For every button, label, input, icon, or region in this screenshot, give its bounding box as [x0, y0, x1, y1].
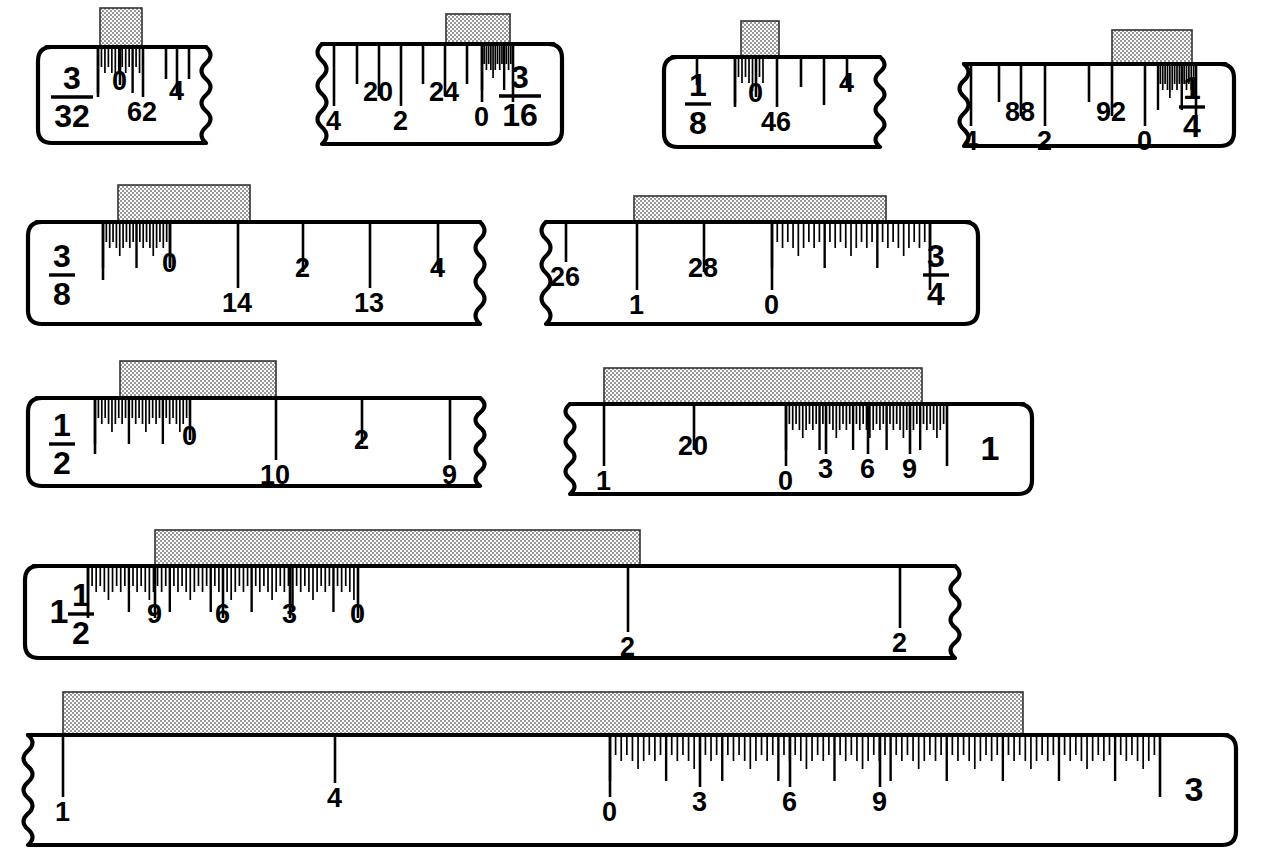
gauge-block — [120, 361, 276, 398]
tick-label: 0 — [764, 290, 779, 320]
tick-label: 0 — [182, 421, 197, 451]
ruler-body — [28, 222, 485, 324]
tick-label: 13 — [354, 288, 384, 318]
ruler-rule-1-2: 0102912 — [28, 361, 485, 490]
tick-label: 1 — [596, 466, 611, 496]
tick-label: 4 — [169, 76, 184, 106]
ruler-rule-3: 1403693 — [24, 692, 1237, 845]
size-label-denominator: 2 — [53, 445, 71, 481]
gauge-block — [1112, 30, 1192, 64]
gauge-block — [604, 368, 922, 404]
size-label-numerator: 3 — [53, 238, 71, 274]
tick-label: 4 — [839, 68, 854, 98]
tick-label: 20 — [363, 77, 393, 107]
tick-label: 88 — [1005, 97, 1035, 127]
tick-label: 0 — [602, 797, 617, 827]
tick-label: 9 — [902, 454, 917, 484]
size-label-numerator: 3 — [63, 60, 81, 96]
tick-label: 62 — [127, 97, 157, 127]
tick-label: 1 — [55, 797, 70, 827]
gauge-block-fill — [120, 361, 276, 398]
size-label-whole: 3 — [1185, 770, 1204, 808]
size-label-whole: 1 — [981, 429, 1000, 467]
gauge-block-fill — [604, 368, 922, 404]
tick-label: 4 — [327, 783, 342, 813]
tick-label: 3 — [282, 599, 297, 629]
ruler-rule-3-4: 26128034 — [542, 196, 979, 324]
tick-label: 0 — [162, 248, 177, 278]
tick-label: 0 — [112, 66, 127, 96]
size-label-denominator: 32 — [54, 98, 90, 134]
gauge-block — [155, 530, 640, 567]
size-label-denominator: 4 — [927, 276, 945, 312]
tick-label: 6 — [215, 599, 230, 629]
tick-label: 9 — [442, 460, 457, 490]
ruler-rule-3-32: 0624332 — [38, 8, 211, 143]
size-label-numerator: 1 — [72, 577, 90, 613]
size-label-whole: 1 — [50, 592, 69, 630]
ruler-body — [28, 398, 485, 486]
size-label-denominator: 2 — [72, 615, 90, 651]
size-label-denominator: 8 — [689, 105, 707, 141]
tick-label: 10 — [260, 460, 290, 490]
tick-label: 14 — [222, 288, 252, 318]
tick-label: 4 — [326, 106, 341, 136]
tick-label: 46 — [761, 107, 791, 137]
size-label-numerator: 1 — [53, 407, 71, 443]
tick-label: 2 — [354, 425, 369, 455]
gauge-block-fill — [118, 185, 250, 222]
tick-label: 2 — [295, 253, 310, 283]
tick-label: 2 — [393, 106, 408, 136]
size-label: 1 — [981, 429, 1000, 467]
size-label-numerator: 3 — [927, 238, 945, 274]
tick-label: 28 — [688, 253, 718, 283]
tick-label: 2 — [892, 628, 907, 658]
ruler-body — [542, 222, 979, 324]
size-label-denominator: 4 — [1183, 108, 1201, 144]
tick-label: 0 — [748, 78, 763, 108]
tick-label: 92 — [1096, 97, 1126, 127]
tick-label: 6 — [860, 454, 875, 484]
gauge-block — [118, 185, 250, 222]
gauge-block-fill — [63, 692, 1023, 738]
ruler-diagram-svg: 0624332420224031604641848829201401421343… — [0, 0, 1277, 867]
ruler-rule-1-1-2: 963022112 — [25, 530, 960, 662]
gauge-block — [741, 21, 779, 57]
tick-label: 1 — [629, 290, 644, 320]
size-label: 3 — [1185, 770, 1204, 808]
tick-label: 4 — [963, 126, 978, 156]
size-label-denominator: 8 — [53, 276, 71, 312]
gauge-block-fill — [741, 21, 779, 57]
tick-label: 0 — [350, 599, 365, 629]
gauge-block-fill — [155, 530, 640, 567]
ruler-rule-3-16: 4202240316 — [318, 14, 563, 144]
ruler-rule-1: 12003691 — [566, 368, 1033, 496]
tick-label: 9 — [147, 599, 162, 629]
ruler-rule-3-8: 014213438 — [28, 185, 485, 324]
tick-label: 3 — [818, 454, 833, 484]
tick-label: 0 — [474, 102, 489, 132]
tick-label: 2 — [620, 632, 635, 662]
gauge-block — [100, 8, 142, 48]
gauge-block-fill — [1112, 30, 1192, 64]
gauge-block-fill — [100, 8, 142, 48]
figure-canvas: 0624332420224031604641848829201401421343… — [0, 0, 1277, 867]
tick-label: 0 — [778, 466, 793, 496]
tick-label: 26 — [550, 262, 580, 292]
size-label-numerator: 1 — [689, 67, 707, 103]
tick-label: 0 — [1137, 126, 1152, 156]
ruler-rule-1-4: 488292014 — [960, 30, 1235, 156]
size-label-numerator: 3 — [511, 59, 529, 95]
ruler-rule-1-8: 046418 — [664, 21, 885, 147]
gauge-block — [63, 692, 1023, 738]
tick-label: 4 — [430, 253, 445, 283]
tick-label: 20 — [678, 431, 708, 461]
tick-label: 24 — [429, 77, 459, 107]
tick-label: 6 — [782, 787, 797, 817]
size-label-numerator: 1 — [1183, 70, 1201, 106]
tick-label: 2 — [1037, 126, 1052, 156]
size-label-denominator: 16 — [502, 97, 538, 133]
tick-label: 9 — [872, 787, 887, 817]
tick-label: 3 — [692, 787, 707, 817]
